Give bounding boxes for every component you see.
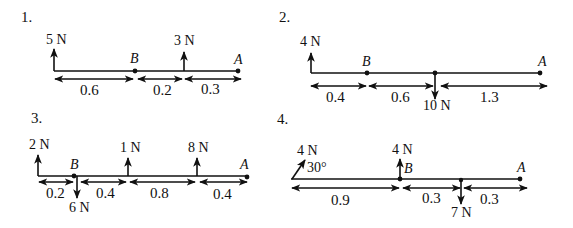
problem-4: 4. 4 N 30° 4 N B 7 N A 0.9 0.3 0.3 [277,111,527,220]
diagram-canvas: 1. 5 N B 3 N A 0.6 0.2 0.3 2. 4 N B 10 N [0,0,573,228]
force-label: 2 N [29,137,50,152]
dimension-label: 0.4 [213,186,232,202]
force-label: 3 N [174,33,195,48]
point-a-label: A [537,54,547,69]
force-label: 7 N [451,205,472,220]
dimension-label: 0.4 [326,89,345,105]
point-a-dot [236,69,241,74]
problem-3: 3. 2 N B 6 N 1 N 8 N A 0.2 0.4 0.8 0.4 [29,110,249,215]
dimension-label: 0.3 [422,190,441,206]
force-label: 4 N [297,143,318,158]
point-a-label: A [233,52,243,67]
beam-problems-figure: 1. 5 N B 3 N A 0.6 0.2 0.3 2. 4 N B 10 N [0,0,573,228]
dimension-label: 0.8 [150,185,169,201]
dimension-label: 0.2 [153,82,172,98]
point-a-dot [538,71,543,76]
point-b-dot [72,174,77,179]
point-a-dot [245,175,250,180]
force-arrow-angled-icon [292,160,305,179]
point-b-label: B [70,157,79,172]
force-label: 5 N [46,32,67,47]
dimension-label: 0.3 [480,191,499,207]
dimension-label: 0.3 [201,81,220,97]
dimension-label: 0.2 [46,185,65,201]
problem-number: 4. [277,111,288,127]
dimension-label: 1.3 [480,89,499,105]
point-b-label: B [130,51,139,66]
dimension-label: 0.9 [331,192,350,208]
problem-1: 1. 5 N B 3 N A 0.6 0.2 0.3 [21,9,243,98]
angle-label: 30° [307,160,327,175]
force-label: 1 N [120,140,141,155]
problem-2: 2. 4 N B 10 N A 0.4 0.6 1.3 [279,9,547,113]
force-label: 6 N [69,200,90,215]
dimension-label: 0.4 [96,185,115,201]
problem-number: 3. [31,110,42,126]
force-label: 8 N [188,140,209,155]
point-b-label: B [362,54,371,69]
problem-number: 1. [21,9,32,25]
point-b-label: B [404,161,413,176]
point-a-dot [518,177,523,182]
point-b-dot [365,71,370,76]
force-label: 4 N [392,142,413,157]
dimension-label: 0.6 [80,82,99,98]
dimension-label: 0.6 [391,89,410,105]
problem-number: 2. [279,9,290,25]
point-a-label: A [516,160,526,175]
point-b-dot [133,69,138,74]
point-a-label: A [239,157,249,172]
force-label: 4 N [300,34,321,49]
force-label: 10 N [423,98,451,113]
